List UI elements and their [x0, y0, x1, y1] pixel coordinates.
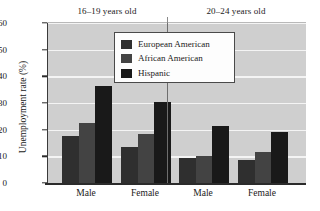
legend-item-african-american: African American	[121, 52, 229, 67]
gridline-30	[48, 103, 306, 104]
y-axis-title: Unemployment rate (%)	[18, 32, 28, 182]
bar	[62, 136, 79, 183]
y-tick-mark-0	[42, 182, 47, 183]
bar	[196, 156, 213, 183]
y-tick-mark-20	[42, 129, 47, 130]
y-tick-label-40: 40	[0, 71, 7, 81]
bar	[255, 152, 272, 183]
bar	[138, 134, 155, 183]
y-tick-label-50: 50	[0, 45, 7, 55]
y-tick-label-30: 30	[0, 98, 7, 108]
y-tick-mark-10	[42, 156, 47, 157]
x-tick-label: Male	[76, 188, 96, 198]
y-tick-label-0: 0	[0, 178, 7, 188]
bar	[238, 160, 255, 183]
unemployment-bar-chart: 16–19 years old 20–24 years old Unemploy…	[0, 0, 320, 211]
y-tick-label-10: 10	[0, 151, 7, 161]
bar	[179, 158, 196, 183]
legend: European American African American Hispa…	[114, 32, 235, 83]
x-tick-label: Male	[193, 188, 213, 198]
y-tick-mark-30	[42, 102, 47, 103]
x-tick-label: Female	[248, 188, 276, 198]
y-tick-mark-40	[42, 76, 47, 77]
legend-swatch-european-american	[121, 40, 132, 49]
group-title-16-19: 16–19 years old	[47, 6, 167, 16]
legend-item-hispanic: Hispanic	[121, 66, 229, 81]
bar	[212, 126, 229, 183]
legend-item-european-american: European American	[121, 37, 229, 52]
bar	[79, 123, 96, 183]
x-tick-label: Female	[131, 188, 159, 198]
y-tick-label-60: 60	[0, 18, 7, 28]
legend-label-african-american: African American	[138, 54, 203, 63]
y-tick-mark-50	[42, 49, 47, 50]
legend-label-hispanic: Hispanic	[138, 69, 170, 78]
x-axis-line	[45, 183, 306, 185]
y-tick-mark-60	[42, 22, 47, 23]
legend-swatch-hispanic	[121, 69, 132, 78]
bar	[121, 147, 138, 183]
legend-swatch-african-american	[121, 54, 132, 63]
gridline-60	[48, 23, 306, 24]
legend-label-european-american: European American	[138, 40, 210, 49]
group-title-20-24: 20–24 years old	[167, 6, 305, 16]
bar	[95, 86, 112, 183]
y-tick-label-20: 20	[0, 125, 7, 135]
bar	[271, 132, 288, 183]
